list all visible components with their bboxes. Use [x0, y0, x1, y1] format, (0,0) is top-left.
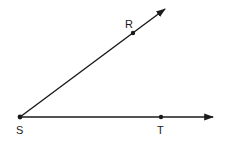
- point-t: [159, 115, 163, 119]
- label-t: T: [157, 124, 164, 136]
- ray-sr: [20, 9, 165, 117]
- label-r: R: [125, 18, 133, 30]
- angle-diagram: R S T: [0, 0, 227, 146]
- label-s: S: [16, 124, 23, 136]
- point-r: [131, 31, 135, 35]
- point-s: [18, 115, 23, 120]
